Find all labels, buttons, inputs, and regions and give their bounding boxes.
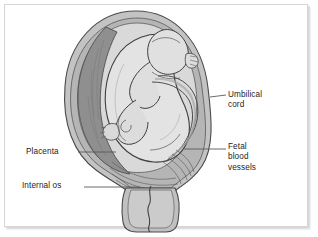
cervix [122,186,179,232]
label-placenta: Placenta [26,147,59,157]
uterus-cross-section-illustration [0,0,318,237]
label-umbilical-cord: Umbilical cord [228,90,262,111]
leader-umbilical-cord [210,95,226,97]
figure-canvas: Umbilical cord Fetal blood vessels Place… [0,0,318,237]
label-internal-os: Internal os [22,181,61,191]
label-fetal-blood-vessels: Fetal blood vessels [228,142,256,173]
